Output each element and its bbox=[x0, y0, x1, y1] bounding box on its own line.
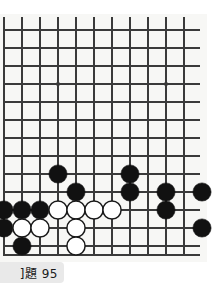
star-point bbox=[56, 82, 60, 86]
black-stone[interactable] bbox=[67, 183, 85, 201]
black-stone[interactable] bbox=[193, 183, 211, 201]
go-board[interactable] bbox=[0, 0, 219, 285]
white-stone[interactable] bbox=[67, 237, 85, 255]
board-grid bbox=[3, 17, 200, 255]
go-problem-figure: ]題 95 bbox=[0, 0, 219, 285]
problem-caption: ]題 95 bbox=[0, 262, 64, 283]
black-stone[interactable] bbox=[0, 201, 13, 219]
black-stone[interactable] bbox=[49, 165, 67, 183]
white-stone[interactable] bbox=[67, 219, 85, 237]
black-stone[interactable] bbox=[13, 201, 31, 219]
black-stone[interactable] bbox=[0, 219, 13, 237]
black-stone[interactable] bbox=[31, 201, 49, 219]
black-stone[interactable] bbox=[121, 165, 139, 183]
white-stone[interactable] bbox=[103, 201, 121, 219]
white-stone[interactable] bbox=[67, 201, 85, 219]
problem-caption-label: ]題 95 bbox=[20, 264, 58, 281]
black-stone[interactable] bbox=[121, 183, 139, 201]
white-stone[interactable] bbox=[49, 201, 67, 219]
black-stone[interactable] bbox=[157, 201, 175, 219]
black-stone[interactable] bbox=[13, 237, 31, 255]
black-stone[interactable] bbox=[193, 219, 211, 237]
white-stone[interactable] bbox=[31, 219, 49, 237]
star-point bbox=[164, 82, 168, 86]
white-stone[interactable] bbox=[85, 201, 103, 219]
white-stone[interactable] bbox=[13, 219, 31, 237]
black-stone[interactable] bbox=[157, 183, 175, 201]
